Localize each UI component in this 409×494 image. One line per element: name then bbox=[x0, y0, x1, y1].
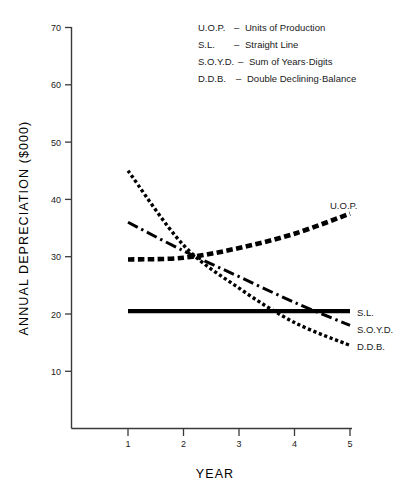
y-tick-label-70: 70 bbox=[51, 23, 61, 33]
x-tick-label-2: 2 bbox=[181, 439, 186, 449]
x-tick-label-1: 1 bbox=[125, 439, 130, 449]
y-tick-label-40: 40 bbox=[51, 195, 61, 205]
series-label-uop: U.O.P. bbox=[330, 200, 357, 211]
legend-entry-soyd-meaning: Sum of Years·Digits bbox=[249, 56, 333, 67]
legend-entry-ddb-dash: – bbox=[236, 73, 242, 84]
y-tick-label-20: 20 bbox=[51, 310, 61, 320]
legend: U.O.P. – Units of Production S.L. – Stra… bbox=[198, 22, 356, 84]
depreciation-chart: 70 60 50 40 30 20 10 1 2 3 4 5 ANNUAL DE… bbox=[0, 0, 409, 494]
y-tick-label-50: 50 bbox=[51, 138, 61, 148]
x-tick-label-3: 3 bbox=[236, 439, 241, 449]
chart-svg: 70 60 50 40 30 20 10 1 2 3 4 5 ANNUAL DE… bbox=[0, 0, 409, 494]
x-tick-label-5: 5 bbox=[347, 439, 352, 449]
x-axis-ticks: 1 2 3 4 5 bbox=[125, 429, 352, 450]
legend-entry-uop-abbr: U.O.P. bbox=[198, 22, 225, 33]
y-tick-label-60: 60 bbox=[51, 80, 61, 90]
legend-entry-sl-abbr: S.L. bbox=[198, 39, 215, 50]
legend-entry-soyd-abbr: S.O.Y.D. bbox=[198, 56, 234, 67]
legend-entry-ddb-abbr: D.D.B. bbox=[198, 73, 226, 84]
legend-entry-uop-dash: – bbox=[234, 22, 240, 33]
x-axis-title: YEAR bbox=[196, 467, 234, 481]
y-axis-ticks: 70 60 50 40 30 20 10 bbox=[51, 23, 72, 377]
data-series-group bbox=[128, 171, 350, 346]
series-label-soyd: S.O.Y.D. bbox=[357, 324, 393, 335]
legend-entry-ddb-meaning: Double Declining·Balance bbox=[247, 73, 356, 84]
series-label-sl: S.L. bbox=[357, 307, 374, 318]
y-tick-label-30: 30 bbox=[51, 252, 61, 262]
axes bbox=[72, 27, 353, 429]
legend-entry-soyd-dash: – bbox=[238, 56, 244, 67]
y-axis-title: ANNUAL DEPRECIATION ($000) bbox=[17, 121, 31, 336]
series-labels: U.O.P. S.L. S.O.Y.D. D.D.B. bbox=[330, 200, 393, 352]
legend-entry-sl-meaning: Straight Line bbox=[245, 39, 298, 50]
y-tick-label-10: 10 bbox=[51, 367, 61, 377]
legend-entry-sl-dash: – bbox=[234, 39, 240, 50]
x-tick-label-4: 4 bbox=[292, 439, 297, 449]
legend-entry-uop-meaning: Units of Production bbox=[245, 22, 325, 33]
series-label-ddb: D.D.B. bbox=[357, 341, 385, 352]
